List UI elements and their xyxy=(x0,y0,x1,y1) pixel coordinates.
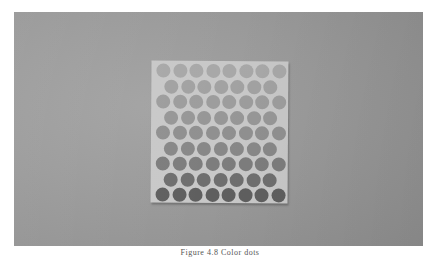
color-dot xyxy=(214,110,228,124)
color-dot xyxy=(172,157,186,171)
color-dot xyxy=(181,110,195,124)
color-dot xyxy=(156,64,170,78)
color-dot xyxy=(213,172,227,186)
color-dot xyxy=(172,126,186,140)
color-dot xyxy=(230,111,244,125)
color-dot xyxy=(246,173,260,187)
color-dot xyxy=(156,95,170,109)
color-dot xyxy=(247,80,261,94)
color-dot xyxy=(255,157,269,171)
color-dot xyxy=(222,64,236,78)
color-dot xyxy=(181,79,195,93)
color-dot xyxy=(197,172,211,186)
color-dot xyxy=(189,157,203,171)
color-dot xyxy=(222,126,236,140)
color-dot xyxy=(264,80,278,94)
color-dot xyxy=(205,188,219,202)
color-dot xyxy=(189,95,203,109)
color-dot xyxy=(231,80,245,94)
color-dot xyxy=(156,188,170,202)
color-dot xyxy=(206,95,220,109)
color-dot xyxy=(239,95,253,109)
color-dot xyxy=(156,157,170,171)
color-dot xyxy=(222,95,236,109)
color-dot xyxy=(198,79,212,93)
color-dot xyxy=(271,126,285,140)
color-dot xyxy=(255,188,269,202)
color-dot xyxy=(271,157,285,171)
color-dot xyxy=(238,188,252,202)
color-dot xyxy=(272,95,286,109)
color-dot xyxy=(247,142,261,156)
color-dot xyxy=(239,64,253,78)
color-dot xyxy=(164,141,178,155)
color-dot xyxy=(180,172,194,186)
color-dot xyxy=(206,64,220,78)
color-dot xyxy=(255,126,269,140)
color-dot xyxy=(230,142,244,156)
color-dot xyxy=(205,126,219,140)
color-dot xyxy=(189,126,203,140)
color-dot xyxy=(156,126,170,140)
color-dot xyxy=(214,79,228,93)
color-dot xyxy=(230,173,244,187)
color-dot xyxy=(255,95,269,109)
color-dot xyxy=(272,64,286,78)
color-dot xyxy=(164,172,178,186)
color-dot xyxy=(173,64,187,78)
color-dot xyxy=(164,110,178,124)
color-dot xyxy=(197,110,211,124)
photo xyxy=(14,12,423,246)
color-dot xyxy=(263,142,277,156)
color-dot xyxy=(165,79,179,93)
color-dot xyxy=(214,141,228,155)
color-dot xyxy=(189,188,203,202)
dot-sheet xyxy=(151,61,289,204)
color-dot xyxy=(238,157,252,171)
color-dot xyxy=(255,64,269,78)
color-dot xyxy=(205,157,219,171)
color-dot xyxy=(247,111,261,125)
color-dot xyxy=(271,188,285,202)
color-dot xyxy=(263,173,277,187)
figure-caption: Figure 4.8 Color dots xyxy=(0,248,440,257)
color-dot xyxy=(173,95,187,109)
color-dot xyxy=(181,141,195,155)
color-dot xyxy=(263,111,277,125)
color-dot xyxy=(222,157,236,171)
color-dot xyxy=(238,126,252,140)
color-dot xyxy=(222,188,236,202)
color-dot xyxy=(197,141,211,155)
color-dot xyxy=(189,64,203,78)
color-dot xyxy=(172,188,186,202)
